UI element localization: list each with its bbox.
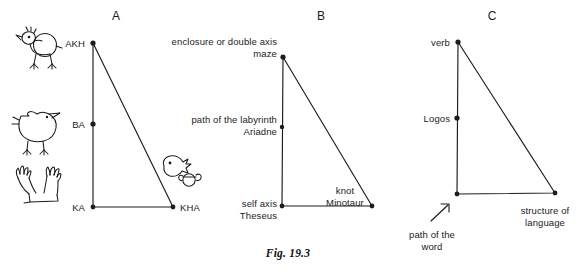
- triangle-a: [93, 43, 173, 207]
- label-path-of-the-word-line2: word: [422, 241, 443, 253]
- label-structure-of-language-line1: structure of: [521, 205, 570, 217]
- vertex-logos-dot: [454, 115, 459, 120]
- vertex-structure-dot: [553, 191, 558, 196]
- vertex-maze-dot: [280, 54, 285, 59]
- vertex-minotaur-dot: [370, 204, 375, 209]
- label-theseus-line1: self axis: [242, 198, 277, 210]
- label-structure-of-language-line2: language: [525, 217, 565, 229]
- label-knot: knot: [336, 185, 354, 197]
- kha-placenta-glyph: [179, 174, 201, 186]
- kha-body-glyph: [163, 156, 191, 176]
- vertex-verb-dot: [455, 39, 460, 44]
- ka-arms-glyph: [17, 166, 62, 203]
- label-ariadne-line1: path of the labyrinth: [191, 114, 277, 126]
- label-verb: verb: [431, 37, 450, 49]
- figure-19-3: A B C AKH BA KA KHA enclosure or double …: [0, 0, 588, 271]
- label-minotaur: Minotaur: [326, 197, 364, 209]
- label-maze-line1: enclosure or double axis: [172, 36, 277, 48]
- vertex-theseus-dot: [280, 204, 285, 209]
- vertex-ba-dot: [90, 121, 95, 126]
- vertex-kha-dot: [171, 205, 176, 210]
- panel-title-a: A: [112, 9, 120, 23]
- panel-title-b: B: [317, 9, 325, 23]
- label-maze-line2: maze: [253, 48, 277, 60]
- path-of-the-word-arrow-icon: [431, 204, 449, 221]
- figure-caption: Fig. 19.3: [266, 247, 310, 259]
- akh-bird-glyph: [16, 27, 62, 69]
- label-theseus-line2: Theseus: [240, 210, 277, 222]
- panel-title-c: C: [488, 9, 497, 23]
- label-ariadne-line2: Ariadne: [244, 126, 277, 138]
- ba-bird-glyph: [12, 112, 60, 155]
- vertex-ariadne-dot: [280, 125, 284, 129]
- label-logos: Logos: [424, 113, 450, 125]
- figure-drawing: [0, 0, 588, 271]
- vertex-ka-dot: [91, 205, 96, 210]
- vertex-wordpath-dot: [455, 192, 460, 197]
- vertex-akh-dot: [90, 40, 95, 45]
- label-ba: BA: [72, 119, 85, 131]
- label-akh: AKH: [65, 38, 85, 50]
- label-path-of-the-word-line1: path of the: [409, 229, 455, 241]
- triangle-c: [457, 42, 555, 194]
- label-kha: KHA: [180, 202, 200, 214]
- label-ka: KA: [72, 202, 85, 214]
- triangle-b: [282, 57, 372, 206]
